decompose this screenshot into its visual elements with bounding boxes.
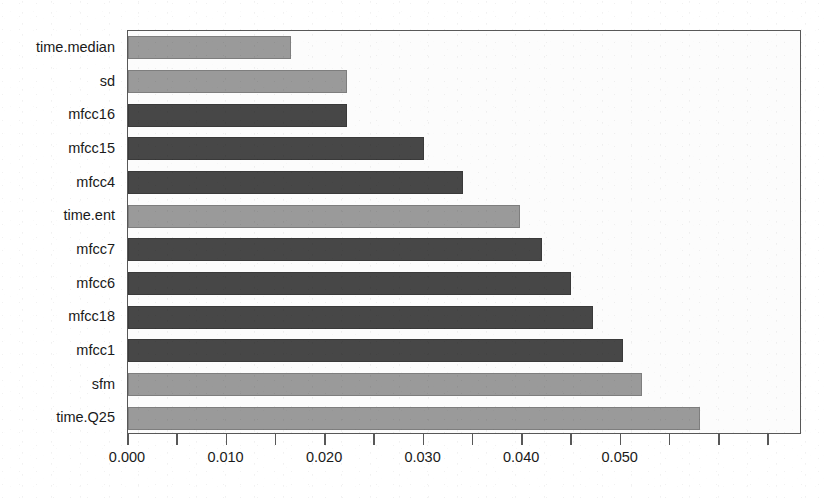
y-axis-label-time.ent: time.ent bbox=[63, 208, 115, 223]
y-axis-label-mfcc7: mfcc7 bbox=[76, 242, 115, 257]
y-axis-label-mfcc15: mfcc15 bbox=[68, 141, 115, 156]
bar-mfcc7 bbox=[128, 238, 542, 261]
chart-screenshot: time.mediansdmfcc16mfcc15mfcc4time.entmf… bbox=[0, 0, 826, 500]
bar-fill bbox=[128, 36, 291, 59]
bar-mfcc18 bbox=[128, 306, 593, 329]
bar-fill bbox=[128, 104, 347, 127]
x-tick-0.0100 bbox=[226, 434, 228, 445]
x-tick-label-0.030: 0.030 bbox=[404, 450, 440, 465]
bar-sd bbox=[128, 70, 347, 93]
x-tick-0.0200 bbox=[324, 434, 326, 445]
y-axis-label-mfcc18: mfcc18 bbox=[68, 309, 115, 324]
y-axis-label-time.median: time.median bbox=[36, 40, 115, 55]
bar-mfcc15 bbox=[128, 137, 424, 160]
x-tick-0.0650 bbox=[767, 434, 769, 445]
x-tick-0.0550 bbox=[669, 434, 671, 445]
bar-fill bbox=[128, 306, 593, 329]
x-tick-0.0350 bbox=[472, 434, 474, 445]
bar-fill bbox=[128, 70, 347, 93]
bar-fill bbox=[128, 373, 642, 396]
x-tick-0.0250 bbox=[373, 434, 375, 445]
bar-fill bbox=[128, 137, 424, 160]
x-tick-0.0500 bbox=[620, 434, 622, 445]
y-axis-label-mfcc4: mfcc4 bbox=[76, 175, 115, 190]
bar-time.ent bbox=[128, 205, 520, 228]
bar-time.median bbox=[128, 36, 291, 59]
x-tick-0.0300 bbox=[423, 434, 425, 445]
x-tick-0.0150 bbox=[275, 434, 277, 445]
x-tick-0.0000 bbox=[127, 434, 129, 445]
x-tick-label-0.040: 0.040 bbox=[503, 450, 539, 465]
y-axis-label-mfcc1: mfcc1 bbox=[76, 343, 115, 358]
y-axis-label-sfm: sfm bbox=[92, 377, 115, 392]
bar-time.Q25 bbox=[128, 407, 700, 430]
x-tick-label-0.020: 0.020 bbox=[306, 450, 342, 465]
bar-fill bbox=[128, 171, 463, 194]
x-tick-label-0.050: 0.050 bbox=[602, 450, 638, 465]
y-axis-label-mfcc6: mfcc6 bbox=[76, 276, 115, 291]
bar-sfm bbox=[128, 373, 642, 396]
bar-fill bbox=[128, 272, 571, 295]
x-axis: 0.0000.0100.0200.0300.0400.050 bbox=[127, 434, 801, 500]
x-tick-label-0.010: 0.010 bbox=[207, 450, 243, 465]
y-axis-label-sd: sd bbox=[100, 74, 115, 89]
bar-mfcc16 bbox=[128, 104, 347, 127]
bar-fill bbox=[128, 339, 623, 362]
y-axis-labels: time.mediansdmfcc16mfcc15mfcc4time.entmf… bbox=[0, 30, 115, 434]
y-axis-label-mfcc16: mfcc16 bbox=[68, 107, 115, 122]
bar-mfcc1 bbox=[128, 339, 623, 362]
plot-area bbox=[127, 30, 801, 434]
x-tick-0.0050 bbox=[176, 434, 178, 445]
x-tick-label-0.000: 0.000 bbox=[109, 450, 145, 465]
bar-mfcc6 bbox=[128, 272, 571, 295]
bar-fill bbox=[128, 407, 700, 430]
x-tick-0.0450 bbox=[570, 434, 572, 445]
x-tick-0.0600 bbox=[718, 434, 720, 445]
x-tick-0.0400 bbox=[521, 434, 523, 445]
bar-fill bbox=[128, 238, 542, 261]
bar-mfcc4 bbox=[128, 171, 463, 194]
y-axis-label-time.Q25: time.Q25 bbox=[56, 410, 115, 425]
bar-fill bbox=[128, 205, 520, 228]
